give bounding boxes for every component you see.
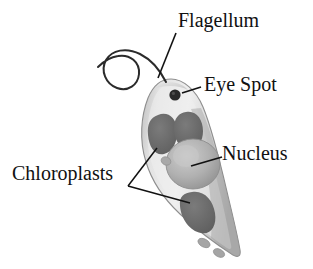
eye-spot (169, 89, 180, 100)
euglena-illustration (0, 0, 313, 269)
cell-body-group (142, 79, 241, 259)
label-chloroplasts: Chloroplasts (12, 163, 113, 183)
label-nucleus: Nucleus (222, 143, 288, 163)
euglena-diagram: Flagellum Eye Spot Nucleus Chloroplasts (0, 0, 313, 269)
eye-spot-highlight (172, 92, 175, 95)
nucleus (166, 139, 220, 189)
label-flagellum: Flagellum (178, 10, 259, 30)
label-eye-spot: Eye Spot (204, 74, 277, 94)
leader-line-flagellum (158, 33, 176, 78)
flagellum (98, 50, 166, 89)
